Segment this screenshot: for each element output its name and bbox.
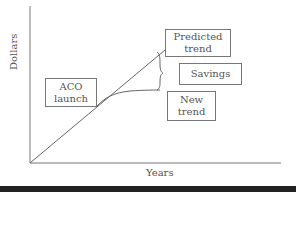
aco-launch-line2: launch <box>54 93 88 105</box>
new-trend-curve <box>97 90 160 106</box>
y-axis-label: Dollars <box>8 30 19 70</box>
savings-label: Savings <box>191 68 231 80</box>
aco-launch-line1: ACO <box>59 81 82 93</box>
savings-brace <box>157 52 163 90</box>
new-trend-line1: New <box>180 94 203 106</box>
x-axis-label: Years <box>146 167 174 178</box>
predicted-trend-box: Predicted trend <box>165 29 231 57</box>
aco-launch-box: ACO launch <box>45 78 97 107</box>
new-trend-box: New trend <box>167 91 216 121</box>
bottom-bar <box>0 186 296 192</box>
predicted-trend-line1: Predicted <box>174 31 223 43</box>
savings-box: Savings <box>179 63 242 85</box>
new-trend-line2: trend <box>178 106 206 118</box>
predicted-trend-line2: trend <box>184 43 212 55</box>
